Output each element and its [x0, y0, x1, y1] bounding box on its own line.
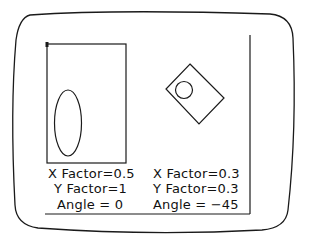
left-scaled-ellipse	[55, 90, 82, 156]
right-y-factor-label: Y Factor=0.3	[153, 181, 239, 196]
right-angle-label: Angle = −45	[153, 197, 239, 212]
origin-marker-icon	[46, 42, 49, 47]
left-y-factor-label: Y Factor=1	[54, 181, 127, 196]
left-angle-label: Angle = 0	[57, 197, 123, 212]
left-x-factor-label: X Factor=0.5	[48, 166, 135, 181]
right-x-factor-label: X Factor=0.3	[153, 166, 240, 181]
left-scaled-rectangle	[47, 44, 126, 163]
right-scaled-circle	[176, 82, 193, 99]
right-rotated-rectangle	[166, 64, 224, 124]
